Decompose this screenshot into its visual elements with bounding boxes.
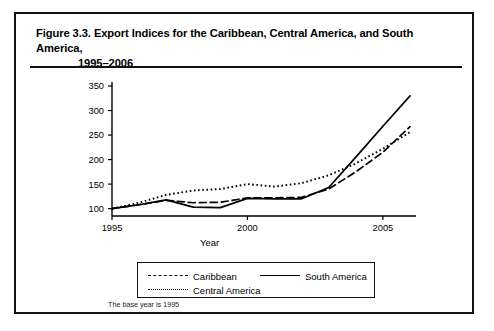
legend-item-central-america: Central America	[148, 284, 261, 296]
figure-number: Figure 3.3.	[36, 27, 91, 39]
figure-title-line2: 1995–2006	[78, 56, 456, 71]
svg-text:1995: 1995	[102, 223, 123, 233]
chart-legend: Caribbean South America Central America	[137, 262, 375, 298]
svg-text:200: 200	[88, 155, 104, 165]
svg-text:150: 150	[88, 180, 104, 190]
legend-key-solid-icon	[260, 272, 300, 280]
line-chart: 100150200250300350199520002005	[14, 70, 418, 245]
figure-note: The base year is 1995	[108, 300, 179, 309]
legend-item-caribbean: Caribbean	[148, 270, 237, 282]
figure-page: Figure 3.3. Export Indices for the Carib…	[0, 0, 494, 331]
figure-title: Figure 3.3. Export Indices for the Carib…	[36, 26, 456, 71]
svg-text:100: 100	[88, 204, 104, 214]
legend-label-central-america: Central America	[193, 285, 261, 296]
chart-plot-area: 100150200250300350199520002005	[14, 70, 418, 245]
svg-text:2005: 2005	[373, 223, 394, 233]
legend-key-dotted-icon	[148, 286, 188, 294]
title-divider	[30, 66, 462, 68]
legend-label-south-america: South America	[305, 271, 367, 282]
figure-title-line1: Export Indices for the Caribbean, Centra…	[36, 27, 413, 54]
svg-text:250: 250	[88, 130, 104, 140]
legend-label-caribbean: Caribbean	[193, 271, 237, 282]
svg-text:300: 300	[88, 106, 104, 116]
legend-item-south-america: South America	[260, 270, 367, 282]
svg-text:2000: 2000	[237, 223, 258, 233]
x-axis-title: Year	[200, 237, 219, 248]
svg-text:350: 350	[88, 81, 104, 91]
legend-key-dashed-icon	[148, 272, 188, 280]
